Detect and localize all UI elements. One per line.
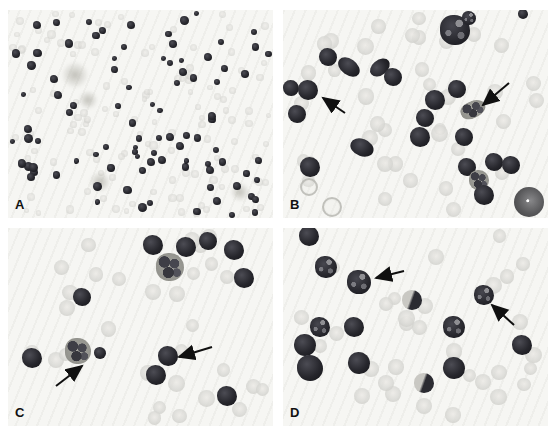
- dark-cell: [254, 177, 260, 183]
- dark-cell: [233, 182, 241, 190]
- pale-cell: [512, 314, 528, 330]
- dark-cell: [184, 158, 190, 164]
- pale-cell: [186, 64, 194, 72]
- pale-cell: [357, 38, 374, 55]
- dark-cell: [300, 157, 320, 177]
- panel-c-label: C: [15, 405, 25, 420]
- pale-cell: [187, 267, 200, 280]
- panel-a-label: A: [15, 197, 25, 212]
- dark-cell: [335, 54, 364, 81]
- pale-cell: [294, 310, 309, 325]
- dark-cell: [179, 58, 185, 64]
- pale-cell: [475, 374, 491, 390]
- dark-cell: [348, 352, 370, 374]
- pale-cell: [101, 321, 117, 337]
- dark-cell: [167, 60, 174, 67]
- pale-cell: [231, 138, 238, 145]
- dark-cell: [319, 48, 337, 66]
- pale-cell: [176, 194, 184, 202]
- panel-b-micrograph: B: [283, 10, 548, 218]
- dark-cell: [143, 235, 163, 255]
- panel-a-micrograph: A: [8, 10, 273, 218]
- dark-cell: [265, 51, 271, 57]
- pale-cell: [198, 390, 215, 407]
- dark-cell: [176, 142, 185, 151]
- pale-cell: [118, 153, 125, 160]
- dark-cell: [18, 159, 27, 168]
- pale-cell: [168, 147, 175, 154]
- dark-cell: [29, 163, 38, 172]
- dark-cell: [194, 11, 199, 16]
- pale-cell: [220, 270, 234, 284]
- pale-cell: [169, 286, 185, 302]
- pale-cell: [301, 65, 316, 80]
- pale-cell: [494, 38, 509, 53]
- pale-cell: [74, 114, 81, 121]
- dark-cell: [299, 228, 319, 246]
- pale-cell: [47, 30, 55, 38]
- pale-cell: [27, 193, 35, 201]
- pale-cell: [149, 141, 157, 149]
- pale-cell: [231, 165, 239, 173]
- dark-cell: [70, 102, 77, 109]
- pale-cell: [490, 389, 506, 405]
- pale-cell: [25, 155, 31, 161]
- dark-cell: [136, 135, 142, 141]
- pale-cell: [256, 74, 264, 82]
- dark-cell: [206, 166, 214, 174]
- pale-cell: [205, 257, 219, 271]
- micrograph-figure: A B C D: [0, 0, 554, 441]
- pale-cell: [416, 398, 432, 414]
- pale-cell: [103, 82, 111, 90]
- pale-cell: [405, 28, 420, 43]
- smudge-cell: [61, 61, 89, 89]
- pale-cell: [78, 128, 86, 136]
- dark-cell: [121, 44, 127, 50]
- pale-cell: [57, 39, 65, 47]
- dark-cell: [288, 105, 306, 123]
- pale-cell: [129, 201, 136, 208]
- dark-cell: [283, 80, 299, 96]
- dark-cell: [53, 19, 60, 26]
- dark-cell: [103, 144, 109, 150]
- dark-cell: [147, 158, 155, 166]
- pale-cell: [78, 41, 86, 49]
- pale-cell: [102, 106, 108, 112]
- dark-cell: [252, 43, 259, 50]
- pale-cell: [198, 121, 205, 128]
- pale-cell: [379, 297, 393, 311]
- mottled-cell: [156, 253, 184, 281]
- pale-cell: [358, 88, 374, 104]
- dark-cell: [123, 186, 132, 195]
- pale-cell: [188, 89, 194, 95]
- pale-cell: [190, 44, 197, 51]
- dark-cell: [512, 335, 532, 355]
- dark-cell: [194, 134, 202, 142]
- dark-cell: [86, 19, 93, 26]
- dark-cell: [213, 197, 221, 205]
- dark-cell: [27, 173, 35, 181]
- dark-cell: [298, 80, 318, 100]
- pale-cell: [256, 383, 269, 396]
- dark-cell: [93, 152, 99, 158]
- pale-cell: [412, 320, 427, 335]
- pale-cell: [516, 257, 529, 270]
- dark-cell: [161, 56, 167, 62]
- pale-cell: [152, 119, 158, 125]
- dark-cell: [129, 119, 136, 126]
- pale-cell: [491, 365, 507, 381]
- dark-cell: [297, 355, 323, 381]
- pale-cell: [204, 135, 211, 142]
- pale-cell: [228, 116, 236, 124]
- mottled-cell: [65, 338, 91, 364]
- dark-cell: [112, 56, 117, 61]
- dark-cell: [66, 109, 73, 116]
- pale-cell: [261, 22, 269, 30]
- pale-cell: [428, 249, 444, 265]
- pale-cell: [524, 362, 538, 376]
- pale-cell: [487, 84, 503, 100]
- pale-cell: [245, 107, 253, 115]
- dark-cell: [241, 70, 249, 78]
- mottled-dark-cell: [462, 11, 476, 25]
- pale-cell: [91, 48, 99, 56]
